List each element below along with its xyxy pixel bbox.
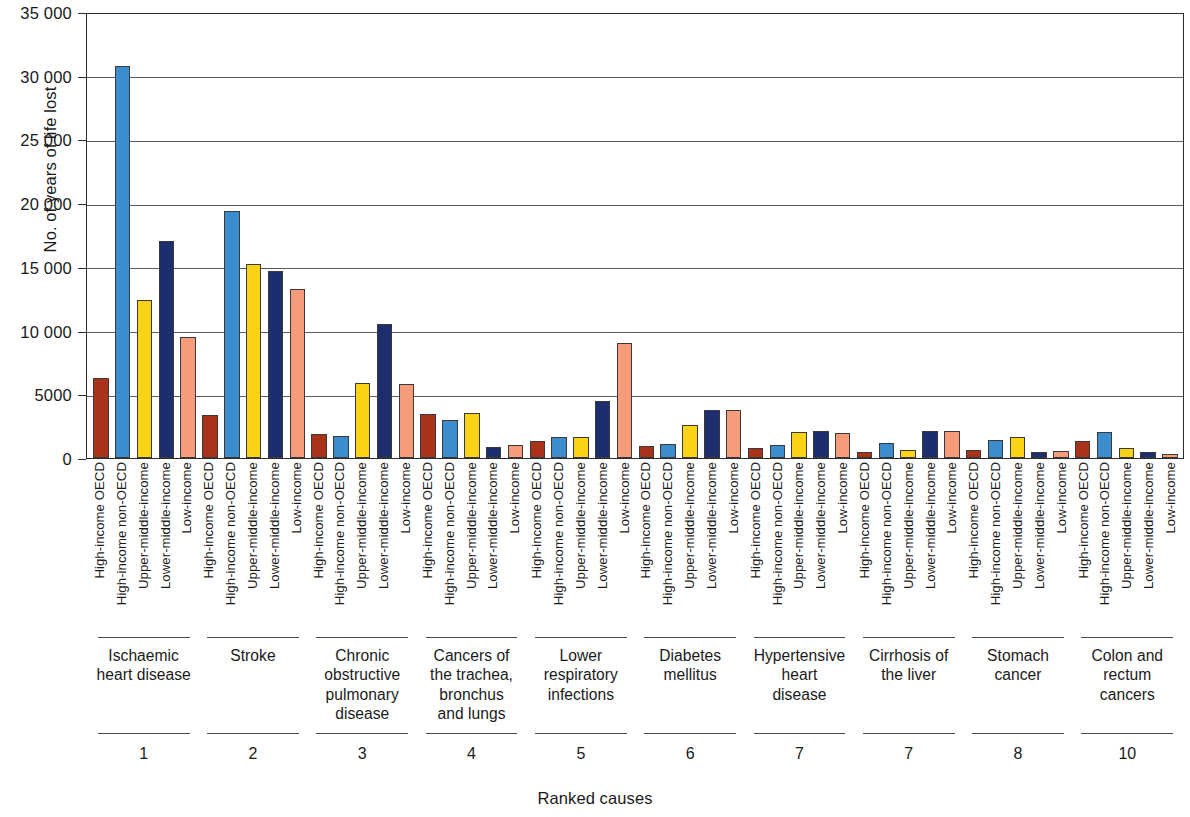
- bar-slot: [155, 14, 177, 458]
- x-tick-label: Lower-middle-income: [815, 462, 828, 589]
- bar[interactable]: [857, 452, 872, 458]
- category-label-slot: High-income non-OECD: [548, 462, 570, 634]
- bar[interactable]: [573, 437, 588, 458]
- bar-chart: No. of years of life lost High-income OE…: [0, 0, 1190, 817]
- bar[interactable]: [748, 448, 763, 458]
- bar[interactable]: [1140, 452, 1155, 458]
- rank-separator-rule: [1081, 733, 1173, 734]
- bar-slot: [723, 14, 745, 458]
- group-name-label: Ischaemicheart disease: [89, 646, 198, 685]
- bar-slot: [1050, 14, 1072, 458]
- bar-slot: [1028, 14, 1050, 458]
- plot-area: [86, 13, 1184, 459]
- group-name-label: Stomachcancer: [963, 646, 1072, 685]
- bar[interactable]: [617, 343, 632, 458]
- x-tick-label: Upper-middle-income: [793, 462, 806, 589]
- bar[interactable]: [115, 66, 130, 458]
- y-tick-mark: [78, 13, 86, 14]
- bar-slot: [330, 14, 352, 458]
- bar[interactable]: [682, 425, 697, 458]
- group-name-cell: Lowerrespiratoryinfections: [526, 637, 635, 729]
- bar-slot: [526, 14, 548, 458]
- bar[interactable]: [508, 445, 523, 458]
- bar[interactable]: [268, 271, 283, 458]
- bar[interactable]: [639, 446, 654, 458]
- bar[interactable]: [922, 431, 937, 458]
- x-tick-label: High-income non-OECD: [552, 462, 565, 605]
- x-tick-label: Lower-middle-income: [268, 462, 281, 589]
- bar[interactable]: [1097, 432, 1112, 458]
- bar[interactable]: [530, 441, 545, 458]
- x-tick-label: Lower-middle-income: [705, 462, 718, 589]
- bar[interactable]: [333, 436, 348, 458]
- bar[interactable]: [1053, 451, 1068, 458]
- bar[interactable]: [726, 410, 741, 458]
- bar[interactable]: [551, 437, 566, 458]
- category-label-slot: High-income OECD: [89, 462, 111, 634]
- bar[interactable]: [1075, 441, 1090, 458]
- category-label-slot: Upper-middle-income: [133, 462, 155, 634]
- bar[interactable]: [770, 445, 785, 458]
- bar[interactable]: [966, 450, 981, 458]
- bar[interactable]: [159, 241, 174, 458]
- bar[interactable]: [704, 410, 719, 458]
- category-label-slot: Low-income: [1051, 462, 1073, 634]
- bar[interactable]: [1031, 452, 1046, 458]
- group-name-label: Chronicobstructivepulmonarydisease: [308, 646, 417, 724]
- bar-slot: [897, 14, 919, 458]
- bar[interactable]: [246, 264, 261, 458]
- category-label-slot: High-income OECD: [198, 462, 220, 634]
- bar[interactable]: [420, 414, 435, 458]
- bar-slot: [614, 14, 636, 458]
- rank-cell: 8: [963, 733, 1072, 779]
- bar[interactable]: [900, 450, 915, 458]
- group-name-label: Colon andrectumcancers: [1073, 646, 1182, 704]
- bar[interactable]: [377, 324, 392, 458]
- bar[interactable]: [355, 383, 370, 458]
- bar-group: [417, 14, 526, 458]
- bar[interactable]: [442, 420, 457, 458]
- bar[interactable]: [813, 431, 828, 458]
- bar[interactable]: [290, 289, 305, 458]
- x-tick-label: High-income OECD: [749, 462, 762, 579]
- bar[interactable]: [660, 444, 675, 458]
- bar[interactable]: [486, 447, 501, 458]
- bar[interactable]: [595, 401, 610, 458]
- category-label-group: High-income OECDHigh-income non-OECDUppe…: [963, 462, 1072, 634]
- x-tick-label: Upper-middle-income: [356, 462, 369, 589]
- category-label-slot: High-income OECD: [1073, 462, 1095, 634]
- bar[interactable]: [399, 384, 414, 458]
- category-label-slot: Low-income: [286, 462, 308, 634]
- bar[interactable]: [1010, 437, 1025, 458]
- bar[interactable]: [944, 431, 959, 458]
- bar-slot: [985, 14, 1007, 458]
- bar[interactable]: [791, 432, 806, 458]
- bar[interactable]: [988, 440, 1003, 458]
- bar[interactable]: [137, 300, 152, 458]
- bar-slot: [832, 14, 854, 458]
- bar[interactable]: [311, 434, 326, 458]
- category-label-slot: Upper-middle-income: [898, 462, 920, 634]
- rank-number: 6: [635, 745, 744, 763]
- bar[interactable]: [835, 433, 850, 458]
- rank-separator-rule: [316, 733, 408, 734]
- bar[interactable]: [224, 211, 239, 458]
- bar[interactable]: [202, 415, 217, 458]
- bar[interactable]: [879, 443, 894, 458]
- bar-slot: [635, 14, 657, 458]
- rank-separator-rule: [972, 733, 1064, 734]
- group-separator-rule: [863, 637, 955, 638]
- y-tick-label: 10 000: [0, 324, 72, 341]
- x-tick-label: Upper-middle-income: [684, 462, 697, 589]
- bar[interactable]: [1119, 448, 1134, 458]
- bar[interactable]: [180, 337, 195, 458]
- bar[interactable]: [93, 378, 108, 458]
- bar[interactable]: [464, 413, 479, 458]
- category-label-slot: High-income OECD: [526, 462, 548, 634]
- bar-slot: [745, 14, 767, 458]
- x-tick-label: High-income OECD: [968, 462, 981, 579]
- rank-cell: 7: [745, 733, 854, 779]
- rank-separator-rule: [98, 733, 190, 734]
- bar[interactable]: [1162, 454, 1177, 458]
- group-name-label: Stroke: [198, 646, 307, 665]
